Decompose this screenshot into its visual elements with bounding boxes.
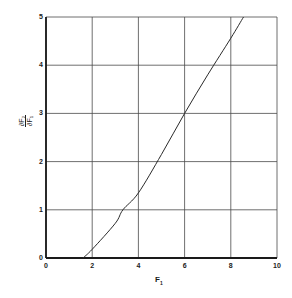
- data-curve: [83, 17, 244, 258]
- x-tick-label: 0: [44, 262, 48, 269]
- x-tick-label: 10: [273, 262, 281, 269]
- axes: [46, 17, 277, 258]
- line-chart: 0246810 012345: [0, 0, 292, 298]
- x-tick-labels: 0246810: [44, 262, 281, 269]
- y-tick-label: 0: [39, 254, 43, 261]
- y-tick-label: 3: [39, 109, 43, 116]
- y-axis-label: ∂F₂ ∂F₁: [16, 108, 34, 134]
- y-tick-label: 4: [39, 61, 43, 68]
- grid-lines: [46, 17, 277, 258]
- x-axis-label: F1: [155, 275, 163, 286]
- x-tick-label: 8: [229, 262, 233, 269]
- y-label-numerator: ∂F₂: [18, 115, 26, 127]
- x-label-sub: 1: [160, 280, 163, 286]
- y-label-denominator: ∂F₁: [26, 115, 33, 127]
- y-tick-label: 2: [39, 158, 43, 165]
- y-axis-fraction: ∂F₂ ∂F₁: [18, 115, 33, 127]
- x-tick-label: 2: [90, 262, 94, 269]
- y-tick-label: 5: [39, 13, 43, 20]
- x-tick-label: 6: [183, 262, 187, 269]
- y-tick-label: 1: [39, 206, 43, 213]
- y-tick-labels: 012345: [39, 13, 43, 261]
- x-tick-label: 4: [136, 262, 140, 269]
